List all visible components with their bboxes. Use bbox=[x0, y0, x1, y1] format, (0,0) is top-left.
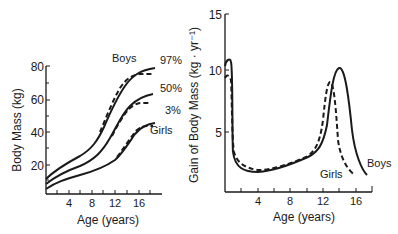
left-y-tick-60: 60 bbox=[31, 93, 45, 107]
right-x-tick-8: 8 bbox=[287, 195, 293, 207]
boys-97-line bbox=[46, 68, 155, 179]
boys-50-line bbox=[46, 94, 153, 184]
left-x-tick-4: 4 bbox=[66, 197, 72, 209]
right-y-axis-label: Gain of Body Mass (kg · yr⁻¹) bbox=[187, 27, 201, 183]
right-x-tick-16: 16 bbox=[350, 195, 362, 207]
left-x-tick-12: 12 bbox=[109, 197, 121, 209]
girls-gain-line bbox=[225, 76, 355, 175]
left-label-boys: Boys bbox=[112, 52, 137, 64]
left-y-tick-80: 80 bbox=[31, 60, 45, 74]
right-label-boys: Boys bbox=[367, 157, 392, 169]
label-50-percent: 50% bbox=[160, 82, 182, 94]
right-y-tick-5: 5 bbox=[215, 126, 222, 140]
boys-gain-line bbox=[225, 59, 367, 175]
right-y-tick-10: 10 bbox=[209, 64, 223, 78]
left-x-tick-8: 8 bbox=[89, 197, 95, 209]
left-y-tick-20: 20 bbox=[31, 159, 45, 173]
left-x-axis-label: Age (years) bbox=[77, 213, 139, 227]
right-chart: 15 10 5 4 8 12 16 Age (years) Gain of Bo… bbox=[187, 8, 392, 224]
right-x-axis-label: Age (years) bbox=[273, 210, 335, 224]
right-label-girls: Girls bbox=[320, 168, 343, 180]
right-x-tick-12: 12 bbox=[317, 195, 329, 207]
left-x-tick-16: 16 bbox=[133, 197, 145, 209]
left-y-tick-40: 40 bbox=[31, 126, 45, 140]
right-x-tick-4: 4 bbox=[255, 195, 261, 207]
girls-50-line bbox=[112, 103, 150, 136]
figure: 80 60 40 20 4 8 12 16 Age (years) Body M… bbox=[0, 0, 398, 234]
left-y-axis-label: Body Mass (kg) bbox=[10, 88, 24, 171]
left-label-girls: Girls bbox=[150, 124, 173, 136]
left-chart: 80 60 40 20 4 8 12 16 Age (years) Body M… bbox=[10, 52, 182, 227]
label-97-percent: 97% bbox=[160, 54, 182, 66]
label-3-percent: 3% bbox=[165, 104, 181, 116]
right-y-tick-15: 15 bbox=[209, 8, 223, 22]
